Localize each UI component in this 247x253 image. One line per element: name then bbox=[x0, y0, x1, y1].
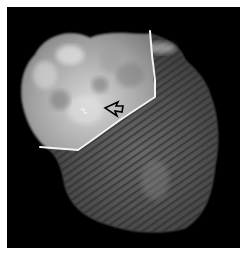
specimen-image bbox=[7, 7, 240, 248]
image-frame bbox=[7, 7, 240, 248]
specimen-body bbox=[22, 33, 218, 232]
